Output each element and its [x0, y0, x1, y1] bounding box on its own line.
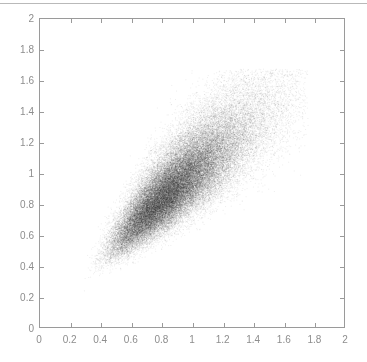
- y-tick-label: 0.4: [20, 261, 34, 272]
- axis-tick: [340, 205, 344, 206]
- axis-tick: [340, 298, 344, 299]
- axis-tick: [340, 112, 344, 113]
- axis-tick: [162, 19, 163, 23]
- y-tick-label: 0.8: [20, 199, 34, 210]
- x-tick-label: 0.4: [93, 334, 107, 345]
- axis-tick: [224, 19, 225, 23]
- x-tick-label: 0.8: [154, 334, 168, 345]
- axis-tick: [40, 81, 44, 82]
- axis-tick: [40, 298, 44, 299]
- y-tick-label: 1.4: [20, 106, 34, 117]
- axis-tick: [254, 323, 255, 327]
- axis-tick: [132, 19, 133, 23]
- axis-tick: [193, 19, 194, 23]
- y-tick-label: 2: [28, 13, 34, 24]
- axis-tick: [340, 143, 344, 144]
- axis-tick: [101, 323, 102, 327]
- axis-tick: [315, 19, 316, 23]
- x-tick-label: 0.2: [63, 334, 77, 345]
- y-tick-label: 0.6: [20, 230, 34, 241]
- x-tick-label: 1.2: [216, 334, 230, 345]
- axis-tick: [285, 19, 286, 23]
- axis-tick: [101, 19, 102, 23]
- x-tick-label: 1: [189, 334, 195, 345]
- axis-tick: [40, 50, 44, 51]
- axis-tick: [71, 323, 72, 327]
- x-tick-label: 1.8: [307, 334, 321, 345]
- y-tick-label: 1: [28, 168, 34, 179]
- axis-tick: [285, 323, 286, 327]
- axis-tick: [340, 81, 344, 82]
- axis-tick: [40, 205, 44, 206]
- axis-tick: [193, 323, 194, 327]
- axis-tick: [224, 323, 225, 327]
- x-tick-label: 1.6: [277, 334, 291, 345]
- axis-tick: [40, 143, 44, 144]
- x-tick-label: 0.6: [124, 334, 138, 345]
- x-tick-label: 1.4: [246, 334, 260, 345]
- x-tick-label: 0: [36, 334, 42, 345]
- plot-area: [39, 18, 345, 328]
- y-tick-label: 0.2: [20, 292, 34, 303]
- axis-tick: [340, 50, 344, 51]
- x-tick-label: 2: [342, 334, 348, 345]
- axis-tick: [40, 112, 44, 113]
- axis-tick: [340, 174, 344, 175]
- axis-tick: [71, 19, 72, 23]
- figure-container: 00.20.40.60.811.21.41.61.8200.20.40.60.8…: [0, 0, 367, 362]
- top-divider-rule: [0, 3, 367, 4]
- axis-tick: [40, 174, 44, 175]
- axis-tick: [254, 19, 255, 23]
- y-tick-label: 1.2: [20, 137, 34, 148]
- axis-tick: [40, 236, 44, 237]
- axis-tick: [132, 323, 133, 327]
- axis-tick: [162, 323, 163, 327]
- axis-tick: [40, 267, 44, 268]
- axis-tick: [340, 236, 344, 237]
- axis-tick: [340, 267, 344, 268]
- scatter-canvas: [40, 19, 345, 328]
- axis-tick: [315, 323, 316, 327]
- y-tick-label: 1.6: [20, 75, 34, 86]
- y-tick-label: 1.8: [20, 44, 34, 55]
- y-tick-label: 0: [28, 323, 34, 334]
